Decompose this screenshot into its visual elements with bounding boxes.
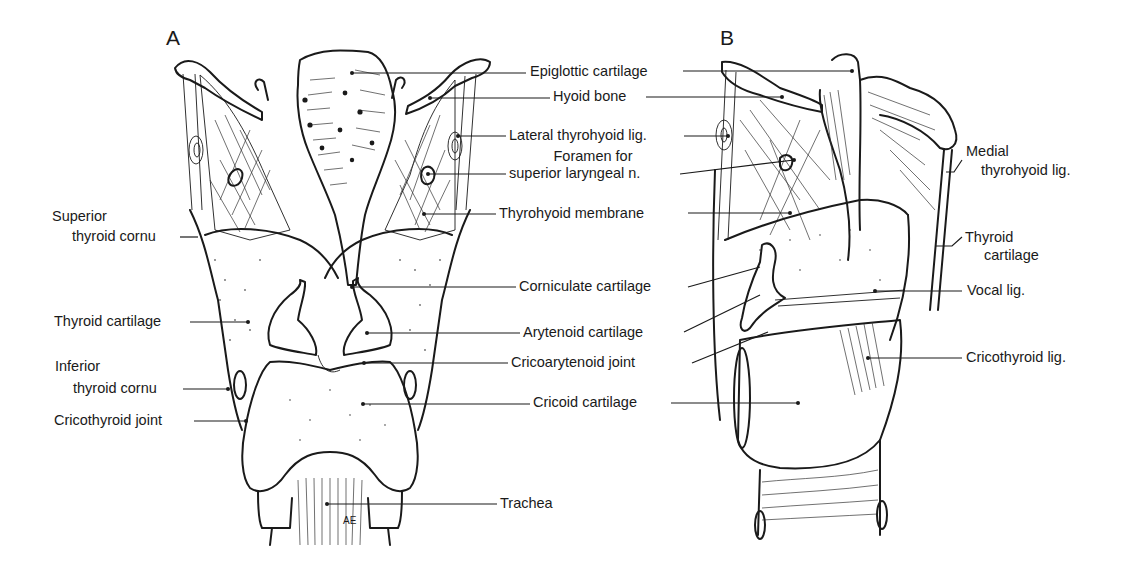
- label-inferior-cornu-line1: Inferior: [55, 358, 100, 375]
- label-hyoid-bone: Hyoid bone: [553, 88, 626, 105]
- label-foramen-line2: superior laryngeal n.: [509, 165, 640, 182]
- panel-letter-a: A: [166, 26, 180, 50]
- label-cricothyroid-lig: Cricothyroid lig.: [966, 349, 1066, 366]
- artist-initials: AE: [343, 515, 357, 526]
- label-thyroid-cartilage-a: Thyroid cartilage: [54, 313, 161, 330]
- label-thyrohyoid-membrane: Thyrohyoid membrane: [499, 205, 644, 222]
- label-medial-thyrohyoid-line1: Medial: [966, 143, 1009, 160]
- label-corniculate-cartilage: Corniculate cartilage: [519, 278, 651, 295]
- panel-a-drawing: AE: [175, 50, 490, 545]
- label-medial-thyrohyoid-line2: thyrohyoid lig.: [981, 162, 1070, 179]
- label-cricoid-cartilage: Cricoid cartilage: [533, 394, 637, 411]
- label-cricothyroid-joint: Cricothyroid joint: [54, 412, 162, 429]
- label-inferior-cornu-line2: thyroid cornu: [73, 380, 157, 397]
- label-vocal-lig: Vocal lig.: [967, 282, 1025, 299]
- label-foramen-line1: Foramen for: [507, 148, 679, 165]
- panel-letter-b: B: [720, 26, 734, 50]
- label-superior-cornu-line1: Superior: [52, 208, 107, 225]
- label-arytenoid-cartilage: Arytenoid cartilage: [523, 324, 643, 341]
- label-superior-cornu-line2: thyroid cornu: [72, 228, 156, 245]
- label-lateral-thyrohyoid-lig: Lateral thyrohyoid lig.: [509, 127, 647, 144]
- label-cricoarytenoid-joint: Cricoarytenoid joint: [511, 354, 635, 371]
- label-thyroid-cartilage-b-line1: Thyroid: [965, 229, 1013, 246]
- panel-b-drawing: [713, 54, 956, 539]
- label-trachea: Trachea: [500, 495, 553, 512]
- label-epiglottic-cartilage: Epiglottic cartilage: [530, 63, 648, 80]
- label-thyroid-cartilage-b-line2: cartilage: [984, 247, 1039, 264]
